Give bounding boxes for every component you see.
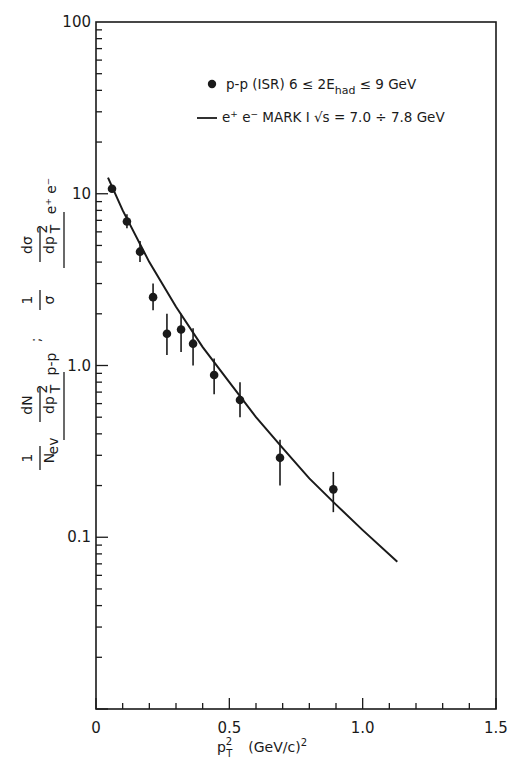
y-tick-label: 1.0 (67, 357, 91, 375)
x-tick-label: 1.0 (351, 719, 375, 737)
y-axis-title: 1NevdNdp2Tp-p;1σdσdp2Te⁺ e⁻ (19, 178, 64, 470)
legend-dot-icon (208, 80, 216, 88)
y-frac-2-den: dp (41, 396, 57, 414)
y-frac-4-num: dσ (19, 236, 35, 254)
y-frac-1-den-sub: ev (45, 438, 61, 455)
y-frac-3-den: σ (41, 295, 57, 304)
legend: p-p (ISR) 6 ≤ 2Ehad ≤ 9 GeVe+ e− MARK I … (197, 76, 445, 125)
data-point (236, 382, 245, 417)
marker-dot (329, 485, 338, 494)
marker-dot (189, 339, 198, 348)
chart: 100101.00.1 00.51.01.5 p-p (ISR) 6 ≤ 2Eh… (0, 0, 524, 769)
plot-border (96, 22, 496, 709)
y-tick-label: 0.1 (67, 528, 91, 546)
marker-dot (163, 329, 172, 338)
x-axis-title: p2T(GeV/c)2 (217, 736, 307, 759)
marker-dot (177, 325, 186, 334)
data-point (210, 358, 219, 394)
y-frac-4-den: dp (41, 236, 57, 254)
marker-dot (210, 371, 219, 380)
x-tick-label: 1.5 (484, 719, 508, 737)
data-point (276, 440, 285, 486)
y-axis-label: 1NevdNdp2Tp-p;1σdσdp2Te⁺ e⁻ (19, 178, 64, 470)
curve-path (108, 178, 397, 562)
y-axis-ticks: 100101.00.1 (62, 13, 108, 709)
y-frac-4-den-sub: T (47, 224, 63, 234)
data-point (108, 184, 117, 193)
plot-frame (96, 22, 496, 709)
y-tick-label: 10 (72, 185, 91, 203)
isr-data-points (108, 184, 338, 512)
y-eval-ee: e⁺ e⁻ (43, 178, 59, 214)
data-point (136, 241, 145, 262)
y-separator: ; (27, 338, 43, 343)
marker-dot (149, 293, 158, 302)
marker-dot (276, 454, 285, 463)
legend-item-isr: p-p (ISR) 6 ≤ 2Ehad ≤ 9 GeV (226, 76, 417, 97)
y-tick-label: 100 (62, 13, 91, 31)
marker-dot (136, 247, 145, 256)
x-tick-label: 0.5 (217, 719, 241, 737)
y-frac-2-num: dN (19, 395, 35, 414)
data-point (163, 314, 172, 355)
marker-dot (236, 396, 245, 405)
legend-item-mark-i: e+ e− MARK I √s = 7.0 ÷ 7.8 GeV (222, 109, 445, 125)
x-axis-ticks: 00.51.01.5 (91, 698, 508, 737)
y-frac-3-num: 1 (19, 296, 35, 305)
data-point (149, 284, 158, 311)
marker-dot (123, 217, 132, 226)
x-axis-label: p2T(GeV/c)2 (217, 736, 307, 759)
y-frac-1-num: 1 (19, 454, 35, 463)
y-frac-2-den-sub: T (47, 384, 63, 394)
x-tick-label: 0 (91, 719, 101, 737)
marker-dot (108, 184, 117, 193)
data-point (189, 328, 198, 365)
mark-i-curve (108, 178, 397, 562)
y-eval-pp: p-p (43, 352, 59, 375)
